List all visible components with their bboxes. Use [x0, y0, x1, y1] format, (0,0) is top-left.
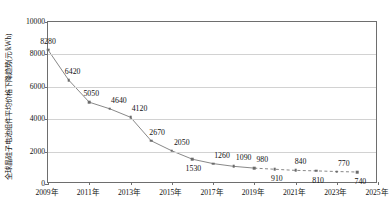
data-point-marker — [88, 101, 91, 104]
y-axis-tick-mark — [45, 152, 48, 153]
x-axis-tick-mark — [172, 182, 173, 185]
y-axis-label: 全球晶硅子电池组件平均价格下降趋势(元/kWh) — [3, 34, 13, 181]
y-axis-tick-label: 2000 — [30, 146, 45, 155]
data-point-label: 910 — [271, 174, 283, 183]
data-point-marker — [212, 162, 215, 165]
data-point-marker — [191, 158, 194, 161]
y-axis-tick-mark — [45, 119, 48, 120]
gridline — [48, 54, 376, 55]
x-axis-tick-mark — [337, 182, 338, 185]
y-axis-tick-mark — [45, 22, 48, 23]
y-axis-tick-mark — [45, 54, 48, 55]
y-axis-tick-label: 8000 — [30, 49, 45, 58]
x-axis-tick-mark — [296, 182, 297, 185]
x-axis-tick-label: 2015年 — [159, 186, 182, 197]
x-axis-tick-mark — [213, 182, 214, 185]
data-point-marker — [129, 116, 132, 119]
data-point-marker — [67, 79, 70, 82]
data-point-label: 1090 — [236, 153, 252, 162]
data-point-label: 2670 — [149, 127, 165, 136]
x-axis-tick-mark — [89, 182, 90, 185]
series-line-dashed — [254, 168, 357, 172]
x-axis-tick-mark — [131, 182, 132, 185]
data-point-label: 4120 — [132, 104, 148, 113]
data-point-label: 8280 — [40, 36, 56, 45]
x-axis-tick-mark — [254, 182, 255, 185]
data-point-marker — [294, 169, 297, 172]
x-axis-tick-label: 2009年 — [35, 186, 58, 197]
plot-area: 8280642050504640412026702050153012601090… — [47, 21, 377, 183]
data-point-label: 6420 — [65, 66, 81, 75]
gridline — [48, 152, 376, 153]
x-axis-tick-label: 2025年 — [365, 186, 388, 197]
gridline — [48, 119, 376, 120]
data-point-marker — [150, 139, 153, 142]
data-point-label: 2050 — [174, 137, 190, 146]
x-axis-tick-label: 2011年 — [77, 186, 100, 197]
x-axis-tick-label: 2017年 — [200, 186, 223, 197]
data-point-marker — [356, 171, 359, 174]
data-point-marker — [253, 167, 256, 170]
data-point-marker — [170, 149, 173, 152]
gridline — [48, 87, 376, 88]
data-point-marker — [315, 170, 318, 173]
x-axis-tick-label: 2023年 — [324, 186, 347, 197]
y-axis-tick-label: 10000 — [26, 17, 45, 26]
data-point-marker — [109, 108, 112, 111]
series-line — [48, 22, 378, 184]
data-point-label: 810 — [312, 175, 324, 184]
y-axis-tick-label: 6000 — [30, 81, 45, 90]
data-point-marker — [335, 170, 338, 173]
data-point-label: 840 — [295, 157, 307, 166]
x-axis-tick-mark — [48, 182, 49, 185]
y-axis-tick-mark — [45, 87, 48, 88]
data-point-label: 740 — [355, 177, 367, 186]
data-point-label: 980 — [256, 155, 268, 164]
data-point-marker — [274, 168, 277, 171]
x-axis-tick-mark — [378, 182, 379, 185]
data-point-label: 1530 — [186, 164, 202, 173]
data-point-label: 5050 — [83, 89, 99, 98]
data-point-label: 770 — [338, 158, 350, 167]
x-axis-tick-labels: 2009年2011年2013年2015年2017年2019年2021年2023年… — [0, 186, 386, 206]
data-point-label: 1260 — [214, 150, 230, 159]
x-axis-tick-label: 2019年 — [242, 186, 265, 197]
data-point-marker — [232, 165, 235, 168]
x-axis-tick-label: 2013年 — [118, 186, 141, 197]
data-point-marker — [47, 49, 50, 52]
data-point-label: 4640 — [111, 95, 127, 104]
x-axis-tick-label: 2021年 — [283, 186, 306, 197]
y-axis-tick-label: 4000 — [30, 114, 45, 123]
y-axis-tick-labels: 0200040006000800010000 — [14, 0, 45, 214]
